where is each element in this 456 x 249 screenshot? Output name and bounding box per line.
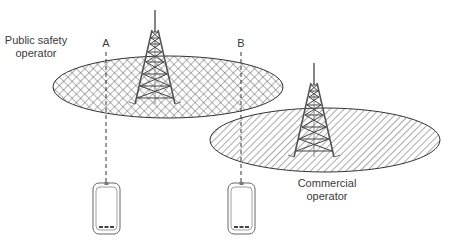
commercial-operator-label: Commercial operator (294, 177, 360, 203)
point-b-label: B (235, 37, 247, 50)
public-safety-operator-label: Public safety operator (4, 34, 68, 60)
commercial-label-line2: operator (294, 190, 360, 203)
commercial-label-line1: Commercial (294, 177, 360, 190)
public-safety-label-line1: Public safety (4, 34, 68, 47)
mobile-device-b-icon (228, 182, 255, 234)
mobile-device-a-icon (93, 182, 120, 234)
point-a-label: A (100, 37, 112, 50)
coverage-diagram (0, 0, 456, 249)
public-safety-label-line2: operator (4, 47, 68, 60)
